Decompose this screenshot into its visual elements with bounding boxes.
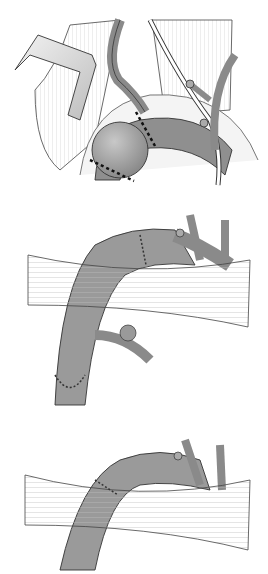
graft: [55, 229, 195, 405]
panel-graft-interposition: [0, 205, 268, 415]
surgical-illustration: [0, 0, 268, 574]
panel-completed-repair: [0, 420, 268, 574]
aneurysm: [92, 122, 148, 178]
panel-aneurysm-exposure: [0, 0, 268, 195]
